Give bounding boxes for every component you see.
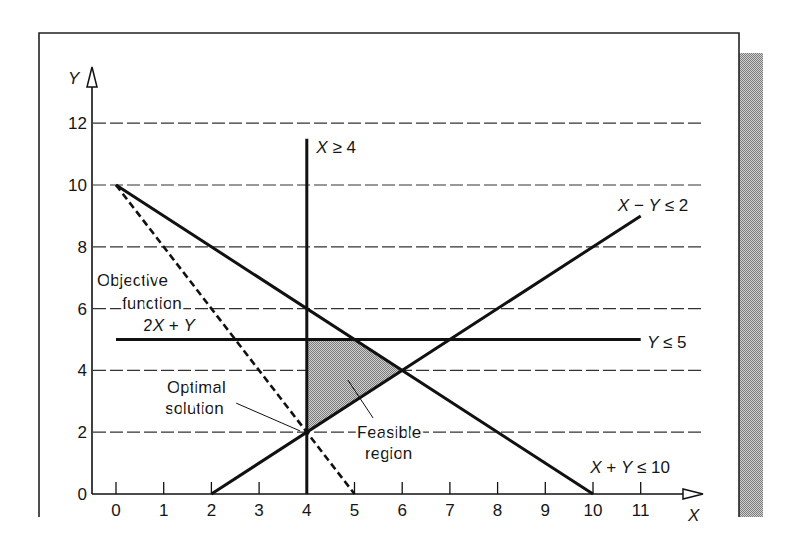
y-tick-label: 12: [68, 114, 87, 133]
optimal-solution-point: [304, 430, 309, 435]
x-axis-arrow-icon: [683, 489, 703, 499]
x-axis-label: X: [687, 506, 700, 525]
x-tick-label: 11: [632, 501, 650, 520]
annotations: X ≥ 4Y ≤ 5X − Y ≤ 2X + Y ≤ 10Objectivefu…: [97, 138, 688, 477]
y-tick-label: 0: [78, 485, 87, 504]
x-tick-label: 5: [350, 501, 359, 520]
x-tick-label: 2: [207, 501, 216, 520]
objective-label-line-3: 2X + Y: [143, 316, 196, 335]
constraint-label: X ≥ 4: [315, 138, 356, 157]
x-tick-label: 8: [493, 501, 502, 520]
optimal-leader: [236, 403, 300, 431]
x-tick-label: 6: [397, 501, 406, 520]
linear-programming-chart: YX 01234567891011024681012 X ≥ 4Y ≤ 5X −…: [0, 0, 793, 551]
y-axis-arrow-icon: [87, 67, 97, 87]
x-tick-label: 3: [254, 501, 263, 520]
optimal-label-line-2: solution: [165, 399, 224, 418]
frame-shadow: [739, 53, 763, 517]
x-tick-label: 7: [445, 501, 454, 520]
x-tick-label: 4: [302, 501, 311, 520]
y-tick-label: 2: [78, 423, 87, 442]
constraint-line-2: [211, 216, 640, 494]
x-tick-label: 1: [159, 501, 168, 520]
x-tick-label: 0: [111, 501, 120, 520]
feasible-label-line-1: Feasible: [357, 423, 421, 442]
constraint-label: Y ≤ 5: [647, 333, 687, 352]
y-axis-label: Y: [68, 69, 81, 88]
feasible-region-layer: [307, 340, 402, 433]
constraint-label: X − Y ≤ 2: [617, 196, 688, 215]
x-tick-label: 10: [584, 501, 603, 520]
constraint-label: X + Y ≤ 10: [589, 458, 670, 477]
y-tick-label: 8: [78, 238, 87, 257]
x-tick-label: 9: [541, 501, 550, 520]
objective-label-line-1: Objective: [97, 271, 168, 290]
y-tick-label: 4: [78, 361, 87, 380]
optimal-label-line-1: Optimal: [167, 378, 226, 397]
objective-label-line-2: function: [122, 294, 182, 313]
y-tick-label: 6: [78, 300, 87, 319]
y-tick-label: 10: [68, 176, 87, 195]
feasible-label-line-2: region: [365, 444, 412, 463]
feasible-region: [307, 340, 402, 433]
